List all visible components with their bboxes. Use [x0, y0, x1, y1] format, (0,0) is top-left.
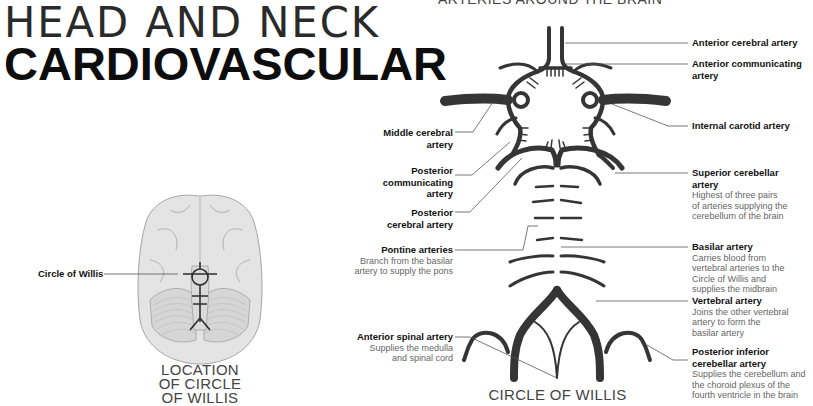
caption-circle-of-willis: CIRCLE OF WILLIS — [470, 388, 645, 402]
brain-illustration — [138, 195, 262, 364]
label-basilar-artery: Basilar artery Carries blood fromvertebr… — [692, 241, 813, 295]
label-anterior-cerebral-artery: Anterior cerebral artery — [692, 37, 813, 49]
label-circle-of-willis: Circle of Willis — [38, 268, 103, 280]
label-pontine-arteries: Pontine arteries Branch from the basilar… — [300, 244, 453, 277]
label-middle-cerebral-artery: Middle cerebralartery — [330, 127, 453, 150]
label-anterior-spinal-artery: Anterior spinal artery Supplies the medu… — [300, 331, 453, 364]
label-posterior-cerebral-artery: Posteriorcerebral artery — [330, 207, 453, 230]
caption-location: LOCATION OF CIRCLE OF WILLIS — [150, 363, 250, 405]
label-anterior-communicating-artery: Anterior communicatingartery — [692, 58, 813, 81]
label-vertebral-artery: Vertebral artery Joins the other vertebr… — [692, 295, 813, 338]
caption-line: OF WILLIS — [150, 391, 250, 405]
label-posterior-communicating-artery: Posteriorcommunicatingartery — [330, 165, 453, 200]
label-posterior-inferior-cerebellar-artery: Posterior inferiorcerebellar artery Supp… — [692, 346, 813, 401]
label-internal-carotid-artery: Internal carotid artery — [692, 120, 813, 132]
label-superior-cerebellar-artery: Superior cerebellarartery Highest of thr… — [692, 167, 813, 222]
